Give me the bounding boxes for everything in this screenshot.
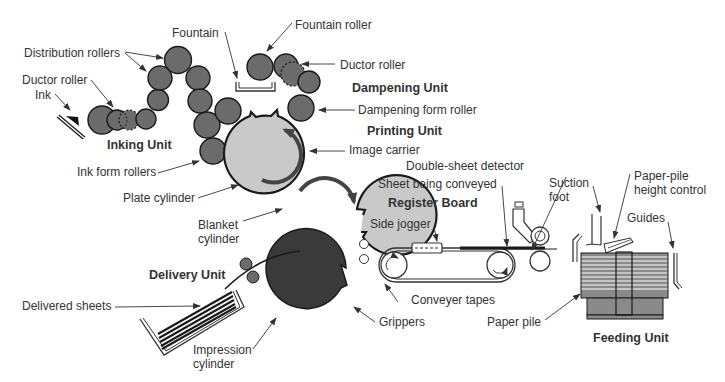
guides <box>674 253 682 289</box>
label-impression-cylinder-2: cylinder <box>193 358 234 371</box>
label-dampening-form-roller: Dampening form roller <box>358 104 477 117</box>
suction-foot <box>586 214 601 245</box>
label-suction-foot-2: foot <box>549 191 569 204</box>
ink-form-roller <box>200 138 226 164</box>
paper-pile-height-control <box>604 238 633 253</box>
label-double-sheet-detector: Double-sheet detector <box>406 160 524 173</box>
ink-roller <box>186 66 210 90</box>
unit-register-board: Register Board <box>388 196 478 210</box>
feeding-unit <box>573 214 682 319</box>
ink-roller <box>148 90 169 111</box>
double-sheet-detector <box>513 202 549 245</box>
label-ink-form-rollers: Ink form rollers <box>77 166 156 179</box>
label-blanket-cylinder-1: Blanket <box>198 219 238 232</box>
unit-feeding: Feeding Unit <box>593 331 669 345</box>
label-paper-pile: Paper pile <box>487 316 541 329</box>
label-blanket-cylinder-2: cylinder <box>198 233 239 246</box>
label-sheet-being-conveyed: Sheet being conveyed <box>378 178 497 191</box>
label-conveyer-tapes: Conveyer tapes <box>411 294 495 307</box>
damp-roller <box>298 71 320 93</box>
plate-cylinder <box>224 110 304 193</box>
transfer-roller <box>360 240 369 249</box>
label-distribution-rollers: Distribution rollers <box>24 47 120 60</box>
label-fountain: Fountain <box>172 27 219 40</box>
label-plate-cylinder: Plate cylinder <box>123 192 195 205</box>
label-delivered-sheets: Delivered sheets <box>22 300 111 313</box>
label-ductor-roller-ink: Ductor roller <box>22 74 87 87</box>
unit-delivery: Delivery Unit <box>149 268 225 282</box>
label-guides: Guides <box>627 212 665 225</box>
ink-roller <box>136 109 156 129</box>
label-paper-pile-height-control-1: Paper-pile <box>634 170 689 183</box>
ink-fountain-icon <box>58 116 84 138</box>
fountain-roller <box>247 54 273 80</box>
label-ink: Ink <box>35 89 51 102</box>
ink-roller <box>215 98 241 124</box>
dampening-form-roller <box>288 95 314 121</box>
label-side-jogger: Side jogger <box>370 218 431 231</box>
distribution-roller <box>165 47 192 74</box>
impression-cylinder <box>266 229 368 309</box>
label-paper-pile-height-control-2: height control <box>634 184 706 197</box>
label-impression-cylinder-1: Impression <box>193 344 252 357</box>
unit-inking: Inking Unit <box>107 138 172 152</box>
transfer-roller <box>360 255 369 264</box>
label-ductor-roller-damp: Ductor roller <box>340 59 405 72</box>
paper-pile <box>581 252 668 319</box>
label-grippers: Grippers <box>379 316 425 329</box>
label-fountain-roller: Fountain roller <box>295 19 372 32</box>
unit-printing: Printing Unit <box>367 124 442 138</box>
unit-dampening: Dampening Unit <box>352 81 448 95</box>
label-suction-foot-1: Suction <box>549 177 589 190</box>
ink-roller <box>188 89 212 113</box>
label-image-carrier: Image carrier <box>349 144 420 157</box>
